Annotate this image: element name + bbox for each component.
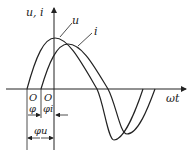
u-origin-label: O <box>29 92 37 103</box>
phi-i-label: φi <box>43 103 53 114</box>
i-curve-label: i <box>94 25 98 38</box>
x-axis-label: ωt <box>166 92 180 105</box>
i-origin-label: O <box>44 92 52 103</box>
phi-label: φ <box>29 103 36 114</box>
u-leader-line <box>60 23 72 37</box>
y-axis-label: u, i <box>26 6 44 19</box>
phi-u-label: φu <box>34 125 47 136</box>
i-leader-line <box>78 33 92 46</box>
sine-phase-diagram: u, i u i ωt O O φ φi φu <box>0 0 189 156</box>
u-curve-label: u <box>72 14 79 27</box>
